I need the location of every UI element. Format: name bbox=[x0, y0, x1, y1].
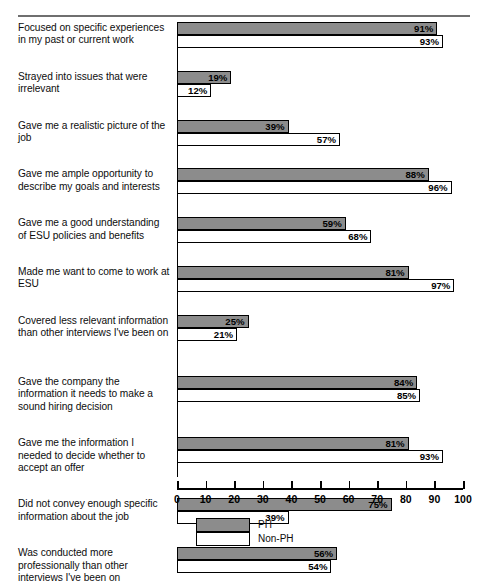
chart-plot-area: Focused on specific experiences in my pa… bbox=[0, 22, 488, 477]
bar-non-ph[interactable]: 93% bbox=[177, 35, 443, 48]
bar-value-label: 97% bbox=[431, 280, 453, 291]
bar-group: 56%54% bbox=[177, 547, 477, 573]
chart-row: Gave me a good understanding of ESU poli… bbox=[0, 217, 488, 257]
x-axis-tick-label: 100 bbox=[454, 493, 472, 505]
bar-non-ph[interactable]: 93% bbox=[177, 450, 443, 463]
bar-slot: 56% bbox=[177, 547, 477, 560]
bar-non-ph[interactable]: 85% bbox=[177, 389, 420, 402]
bar-non-ph[interactable]: 21% bbox=[177, 328, 237, 341]
category-label: Gave me the information I needed to deci… bbox=[18, 437, 170, 474]
bar-value-label: 84% bbox=[394, 377, 416, 388]
bar-non-ph[interactable]: 97% bbox=[177, 279, 454, 292]
bar-value-label: 59% bbox=[323, 218, 345, 229]
bar-ph[interactable]: 84% bbox=[177, 376, 417, 389]
bar-slot: 54% bbox=[177, 560, 477, 573]
bar-non-ph[interactable]: 12% bbox=[177, 84, 211, 97]
x-axis-tick bbox=[434, 481, 436, 489]
category-label: Gave the company the information it need… bbox=[18, 376, 170, 413]
bar-slot: 81% bbox=[177, 266, 477, 279]
chart-row: Was conducted more professionally than o… bbox=[0, 547, 488, 585]
chart-row: Strayed into issues that were irrelevant… bbox=[0, 71, 488, 111]
bar-value-label: 19% bbox=[208, 72, 230, 83]
legend-label: Non-PH bbox=[258, 533, 294, 544]
bar-non-ph[interactable]: 96% bbox=[177, 181, 452, 194]
x-axis-tick-label: 70 bbox=[371, 493, 383, 505]
chart-row: Made me want to come to work at ESU81%97… bbox=[0, 266, 488, 306]
bar-value-label: 12% bbox=[188, 85, 210, 96]
category-label: Made me want to come to work at ESU bbox=[18, 266, 170, 291]
x-axis-tick bbox=[291, 481, 293, 489]
bar-slot: 57% bbox=[177, 133, 477, 146]
bar-ph[interactable]: 88% bbox=[177, 168, 429, 181]
bar-ph[interactable]: 39% bbox=[177, 120, 289, 133]
x-axis-tick bbox=[234, 481, 236, 489]
bar-slot: 91% bbox=[177, 22, 477, 35]
x-axis-tick-label: 80 bbox=[400, 493, 412, 505]
bar-group: 39%57% bbox=[177, 120, 477, 146]
x-axis-tick bbox=[263, 481, 265, 489]
bar-ph[interactable]: 59% bbox=[177, 217, 346, 230]
category-label: Strayed into issues that were irrelevant bbox=[18, 71, 170, 96]
legend-label: PH bbox=[258, 519, 272, 530]
category-label: Focused on specific experiences in my pa… bbox=[18, 22, 170, 47]
bar-group: 25%21% bbox=[177, 315, 477, 341]
bar-value-label: 93% bbox=[420, 451, 442, 462]
bar-non-ph[interactable]: 57% bbox=[177, 133, 340, 146]
x-axis-tick-label: 40 bbox=[286, 493, 298, 505]
bar-slot: 93% bbox=[177, 450, 477, 463]
bar-value-label: 21% bbox=[214, 329, 236, 340]
x-axis-tick-label: 30 bbox=[257, 493, 269, 505]
bar-slot: 97% bbox=[177, 279, 477, 292]
bar-slot: 88% bbox=[177, 168, 477, 181]
bar-slot: 96% bbox=[177, 181, 477, 194]
x-axis-tick bbox=[349, 481, 351, 489]
bar-value-label: 85% bbox=[397, 390, 419, 401]
bar-group: 91%93% bbox=[177, 22, 477, 48]
x-axis-tick-label: 60 bbox=[343, 493, 355, 505]
bar-value-label: 54% bbox=[308, 561, 330, 572]
x-axis-tick bbox=[320, 481, 322, 489]
bar-non-ph[interactable]: 54% bbox=[177, 560, 331, 573]
bar-ph[interactable]: 81% bbox=[177, 437, 409, 450]
x-axis-tick-label: 20 bbox=[228, 493, 240, 505]
category-label: Covered less relevant information than o… bbox=[18, 315, 170, 340]
chart-row: Covered less relevant information than o… bbox=[0, 315, 488, 355]
bar-ph[interactable]: 25% bbox=[177, 315, 249, 328]
bar-group: 59%68% bbox=[177, 217, 477, 243]
bar-ph[interactable]: 81% bbox=[177, 266, 409, 279]
bar-ph[interactable]: 56% bbox=[177, 547, 337, 560]
bar-value-label: 96% bbox=[428, 182, 450, 193]
bar-value-label: 91% bbox=[414, 23, 436, 34]
bar-ph[interactable]: 91% bbox=[177, 22, 437, 35]
bar-group: 84%85% bbox=[177, 376, 477, 402]
bar-slot: 81% bbox=[177, 437, 477, 450]
bar-slot: 19% bbox=[177, 71, 477, 84]
x-axis-tick bbox=[463, 481, 465, 489]
bar-slot: 84% bbox=[177, 376, 477, 389]
chart-row: Gave me a realistic picture of the job39… bbox=[0, 120, 488, 160]
chart-row: Gave me the information I needed to deci… bbox=[0, 437, 488, 477]
bar-value-label: 25% bbox=[225, 316, 247, 327]
bar-slot: 59% bbox=[177, 217, 477, 230]
bar-non-ph[interactable]: 68% bbox=[177, 230, 371, 243]
bar-slot: 21% bbox=[177, 328, 477, 341]
bar-ph[interactable]: 19% bbox=[177, 71, 231, 84]
x-axis-tick bbox=[206, 481, 208, 489]
bar-group: 81%97% bbox=[177, 266, 477, 292]
x-axis-tick-label: 50 bbox=[314, 493, 326, 505]
x-axis-tick-label: 10 bbox=[200, 493, 212, 505]
top-rule bbox=[18, 15, 470, 17]
category-label: Gave me a good understanding of ESU poli… bbox=[18, 217, 170, 242]
legend-swatch-ph bbox=[196, 518, 250, 532]
bar-slot: 39% bbox=[177, 120, 477, 133]
bar-value-label: 81% bbox=[385, 267, 407, 278]
bar-value-label: 68% bbox=[348, 231, 370, 242]
legend-swatch-nonph bbox=[196, 532, 250, 546]
bar-group: 88%96% bbox=[177, 168, 477, 194]
x-axis-tick bbox=[406, 481, 408, 489]
bar-slot: 93% bbox=[177, 35, 477, 48]
bar-slot: 25% bbox=[177, 315, 477, 328]
x-axis-tick-label: 0 bbox=[174, 493, 180, 505]
bar-slot: 68% bbox=[177, 230, 477, 243]
